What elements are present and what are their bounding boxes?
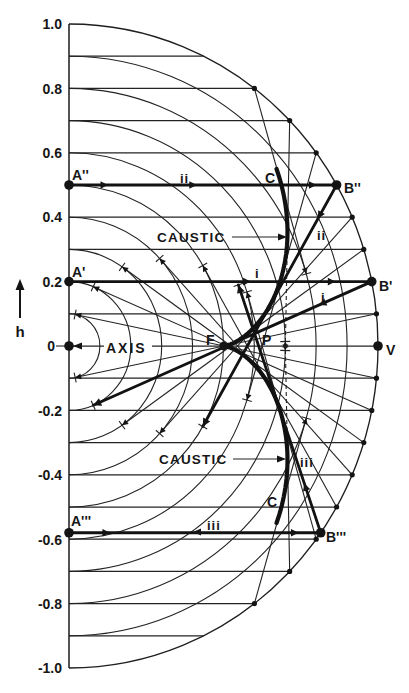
mirror-point-dot [252,601,257,606]
axis-label: AXIS [106,340,147,356]
mirror-point-dot [374,376,379,381]
caustic-pointer-lower-arrow-icon [277,456,286,463]
spherical-mirror-caustic-diagram: 1.0 0.8 0.6 0.4 0.2 0 -0.2 -0.4 -0.6 -0.… [0,0,409,693]
caustic-marker-upper: C [265,170,275,186]
arrow-right-icon [328,278,336,286]
ray-arrow-icon [246,292,252,299]
h-axis-label: h [15,323,24,340]
mirror-point-dot [314,150,319,155]
point-label-a-triple-prime: A''' [71,513,91,529]
tick-label: -0.4 [38,467,62,483]
ray-label-i-reflected: i [321,290,326,305]
tick-label: -0.8 [38,596,62,612]
arrow-right-icon [189,181,197,189]
focus-point [219,342,227,350]
mirror-point-dot [252,86,257,91]
wavefront-tick [198,263,207,268]
tick-label: 0 [47,338,55,354]
mirror-point-dot [374,311,379,316]
tick-label: 1.0 [43,16,63,32]
ray-label-ii-reflected: ii [317,228,326,243]
point-label-a-prime: A' [72,264,85,280]
ray-label-ii-incident: ii [180,171,189,186]
tick-label: 0.4 [43,209,63,225]
arrow-right-icon [291,529,299,537]
ray-arrow-icon [246,394,252,401]
tick-label: -0.2 [38,403,62,419]
mirror-point-dot [350,472,355,477]
start-point-iii [64,528,74,538]
focus-label: F [206,332,215,348]
ray-arrow-icon [303,483,310,491]
ray-label-iii-incident: iii [207,518,221,533]
up-arrow-icon [16,279,25,290]
caustic-label-lower: CAUSTIC [159,452,227,467]
point-label-b-double-prime: B'' [344,180,361,196]
mirror-point-dot [361,247,366,252]
tick-label: 0.2 [43,274,63,290]
tick-label: 0.6 [43,145,63,161]
mirror-point-iii [316,528,326,538]
vertex-label: V [386,342,396,358]
point-label-a-double-prime: A'' [72,167,89,183]
arrow-right-icon [309,181,317,189]
point-label-b-triple-prime: B''' [326,529,346,545]
mirror-point-dot [350,215,355,220]
arrow-right-icon [243,278,251,286]
arrow-right-icon [100,181,108,189]
mirror-point-ii [332,180,342,190]
tick-label: -0.6 [38,532,62,548]
mirror-point-dot [334,504,339,509]
mirror-point-dot [287,118,292,123]
caustic-label-upper: CAUSTIC [157,230,225,245]
point-label-b-prime: B' [379,278,392,294]
mirror-point-i [367,277,377,287]
axis-arrow-icon [73,343,82,350]
tick-label: 0.8 [43,81,63,97]
mirror-point-dot [314,537,319,542]
origin-point [64,341,74,351]
mirror-point-dot [361,440,366,445]
ray-label-iii-reflected: iii [300,455,314,470]
caustic-marker-lower: C [267,494,277,510]
intersection-label: P [262,332,271,348]
mirror-point-dot [369,408,374,413]
ray-label-i-incident: i [255,266,260,281]
vertex-point [373,341,383,351]
tick-label: -1.0 [38,660,62,676]
mirror-point-dot [287,569,292,574]
